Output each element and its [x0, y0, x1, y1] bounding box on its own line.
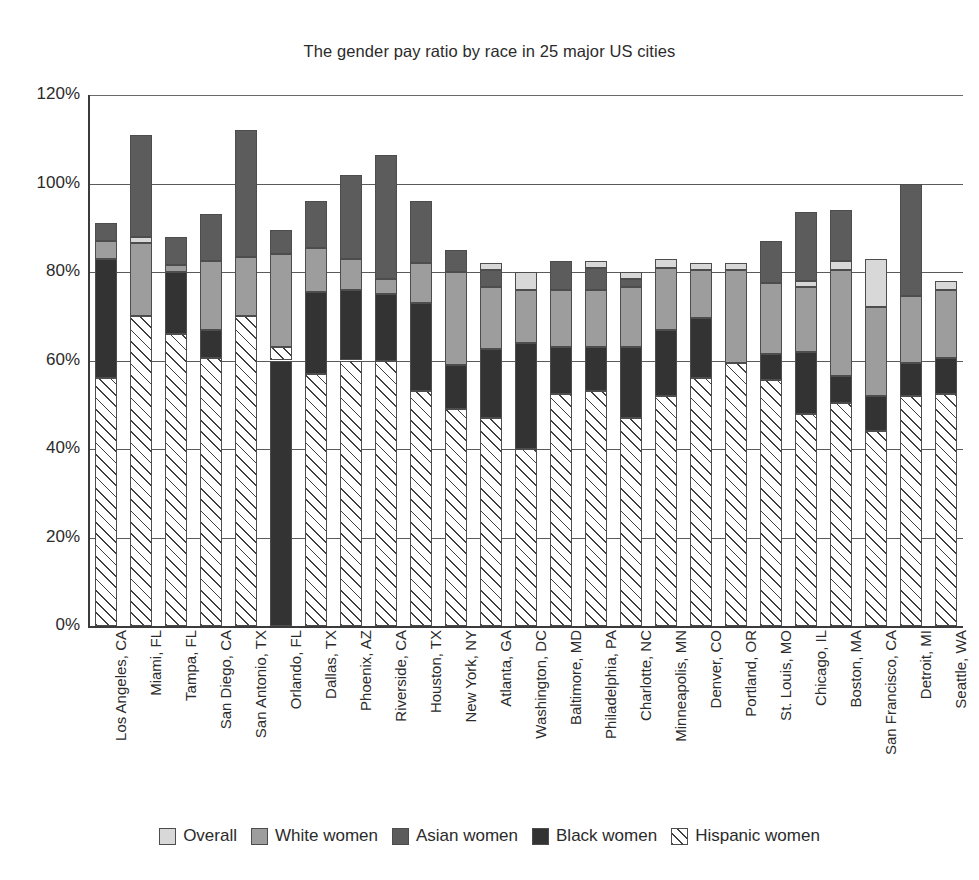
bar-segment-hispanic — [340, 361, 362, 627]
y-tick-label: 120% — [6, 84, 80, 104]
bar-segment-overall — [620, 272, 642, 279]
bar-new-york-ny[interactable] — [445, 95, 467, 626]
x-tick-label: Baltimore, MD — [567, 630, 584, 810]
legend-item-black[interactable]: Black women — [532, 826, 657, 846]
bar-houston-tx[interactable] — [410, 95, 432, 626]
bar-segment-black — [760, 354, 782, 381]
bar-miami-fl[interactable] — [130, 95, 152, 626]
bar-phoenix-az[interactable] — [340, 95, 362, 626]
bar-seattle-wa[interactable] — [935, 95, 957, 626]
y-tick-label: 20% — [6, 527, 80, 547]
bar-segment-hispanic — [620, 418, 642, 626]
bar-tampa-fl[interactable] — [165, 95, 187, 626]
x-tick-label: Phoenix, AZ — [357, 630, 374, 810]
x-tick-label: San Francisco, CA — [882, 630, 899, 810]
bar-segment-asian — [830, 210, 852, 261]
bar-washington-dc[interactable] — [515, 95, 537, 626]
bar-charlotte-nc[interactable] — [620, 95, 642, 626]
bar-philadelphia-pa[interactable] — [585, 95, 607, 626]
bar-segment-asian — [165, 237, 187, 266]
bar-segment-asian — [270, 230, 292, 254]
bar-segment-hispanic — [445, 409, 467, 626]
bar-detroit-mi[interactable] — [900, 95, 922, 626]
legend-item-white[interactable]: White women — [251, 826, 378, 846]
bar-segment-hispanic — [235, 316, 257, 626]
bar-segment-overall — [585, 261, 607, 268]
bar-segment-overall — [795, 281, 817, 288]
x-tick-label: Washington, DC — [532, 630, 549, 810]
bar-segment-black — [200, 330, 222, 359]
y-tick-label: 0% — [6, 615, 80, 635]
bar-segment-black — [935, 358, 957, 393]
bar-chicago-il[interactable] — [795, 95, 817, 626]
bar-san-antonio-tx[interactable] — [235, 95, 257, 626]
bar-boston-ma[interactable] — [830, 95, 852, 626]
bar-segment-white — [690, 270, 712, 319]
legend-item-hispanic[interactable]: Hispanic women — [671, 826, 820, 846]
bar-segment-overall — [725, 263, 747, 270]
legend-item-overall[interactable]: Overall — [159, 826, 237, 846]
bar-segment-white — [95, 241, 117, 259]
bar-segment-black — [585, 347, 607, 391]
bar-segment-hispanic — [725, 363, 747, 626]
bar-dallas-tx[interactable] — [305, 95, 327, 626]
legend-label: White women — [275, 826, 378, 846]
x-tick-label: Seattle, WA — [952, 630, 969, 810]
bar-riverside-ca[interactable] — [375, 95, 397, 626]
x-tick-label: Chicago, IL — [812, 630, 829, 810]
bar-segment-white — [480, 287, 502, 349]
legend-label: Overall — [183, 826, 237, 846]
x-tick-label: New York, NY — [462, 630, 479, 810]
y-tick-label: 40% — [6, 438, 80, 458]
bar-segment-overall — [865, 259, 887, 308]
x-axis-tick-labels: Los Angeles, CAMiami, FLTampa, FLSan Die… — [88, 630, 963, 820]
bar-segment-black — [340, 290, 362, 361]
x-tick-label: Dallas, TX — [322, 630, 339, 810]
bar-segment-hispanic — [585, 391, 607, 626]
bar-segment-hispanic — [165, 334, 187, 626]
bar-segment-white — [830, 270, 852, 376]
bar-segment-black — [95, 259, 117, 378]
bar-segment-hispanic — [375, 361, 397, 627]
bar-st-louis-mo[interactable] — [760, 95, 782, 626]
legend-label: Black women — [556, 826, 657, 846]
bar-portland-or[interactable] — [725, 95, 747, 626]
bar-segment-asian — [445, 250, 467, 272]
bar-segment-asian — [550, 261, 572, 290]
bar-segment-asian — [795, 212, 817, 281]
bar-san-francisco-ca[interactable] — [865, 95, 887, 626]
legend-item-asian[interactable]: Asian women — [392, 826, 518, 846]
x-axis-line — [88, 626, 963, 628]
bar-segment-hispanic — [830, 403, 852, 626]
bar-segment-asian — [305, 201, 327, 247]
bar-segment-hispanic — [690, 378, 712, 626]
bar-segment-hispanic — [270, 347, 292, 360]
bar-segment-white — [760, 283, 782, 354]
bar-segment-asian — [620, 279, 642, 288]
bar-minneapolis-mn[interactable] — [655, 95, 677, 626]
bar-segment-asian — [95, 223, 117, 241]
bar-segment-black — [830, 376, 852, 403]
legend-swatch-overall-icon — [159, 828, 176, 845]
bar-segment-white — [935, 290, 957, 359]
bar-segment-overall — [130, 237, 152, 244]
bar-baltimore-md[interactable] — [550, 95, 572, 626]
x-tick-label: St. Louis, MO — [777, 630, 794, 810]
bar-segment-overall — [515, 272, 537, 290]
bar-los-angeles-ca[interactable] — [95, 95, 117, 626]
bar-segment-hispanic — [550, 394, 572, 626]
legend-label: Hispanic women — [695, 826, 820, 846]
bar-segment-white — [585, 290, 607, 348]
bar-atlanta-ga[interactable] — [480, 95, 502, 626]
bar-segment-asian — [480, 270, 502, 288]
bar-segment-black — [165, 272, 187, 334]
y-tick-label: 80% — [6, 261, 80, 281]
bar-denver-co[interactable] — [690, 95, 712, 626]
bar-orlando-fl[interactable] — [270, 95, 292, 626]
bar-san-diego-ca[interactable] — [200, 95, 222, 626]
bar-segment-hispanic — [95, 378, 117, 626]
x-tick-label: Riverside, CA — [392, 630, 409, 810]
x-tick-label: San Antonio, TX — [252, 630, 269, 810]
x-tick-label: Miami, FL — [147, 630, 164, 810]
bar-segment-white — [550, 290, 572, 348]
